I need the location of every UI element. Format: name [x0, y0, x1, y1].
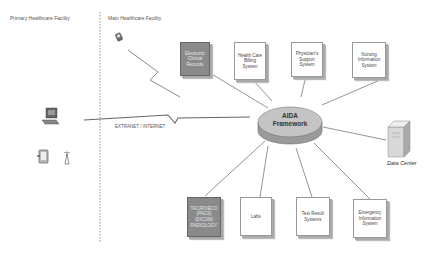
- data-center-label: Data Center: [387, 160, 417, 166]
- desktop-computer-icon: [42, 108, 59, 124]
- main-facility-label: Main Healthcare Facility: [108, 15, 161, 21]
- primary-facility-label: Primary Healthcare Facility: [10, 15, 70, 21]
- box-physicians-support: Physician's Support System: [291, 42, 323, 77]
- tablet-icon: [37, 150, 48, 163]
- extranet-label: EXTRANET / INTERNET: [115, 124, 165, 129]
- hub-line2: Framework: [265, 120, 315, 128]
- wireless-antenna-icon: [64, 152, 70, 164]
- server-icon: [388, 121, 410, 157]
- box-health-care-billing: Health Care Billing System: [234, 42, 266, 80]
- hub-label: AIDA Framework: [265, 112, 315, 129]
- box-nursing-information: Nursing Information System: [352, 42, 386, 78]
- box-test-result-systems: Test Result Systems: [296, 197, 330, 236]
- hub-line1: AIDA: [265, 112, 315, 120]
- box-emergency-information: Emergency Information System: [353, 199, 387, 238]
- box-labs: Labs: [240, 197, 272, 236]
- pda-icon: [115, 32, 124, 42]
- box-electronic-clinical-records: Electronic Clinical Records: [180, 42, 210, 76]
- box-radiology-pacs: TAC/RX/ECO (PACS) (DICOM) RADIOLOGY: [187, 197, 221, 237]
